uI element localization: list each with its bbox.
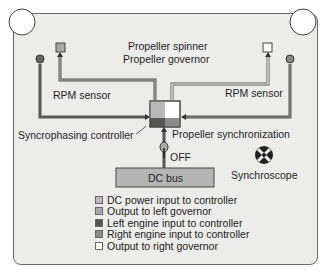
propeller-synchronization-label: Propeller synchronization xyxy=(172,128,290,140)
left-rpm-sensor-label: RPM sensor xyxy=(53,89,111,101)
legend-item: DC power input to controller xyxy=(95,194,249,206)
legend-label: Left engine input to controller xyxy=(107,217,242,229)
off-label: OFF xyxy=(170,151,191,163)
right-governor xyxy=(263,43,272,52)
legend-item: Right engine input to controller xyxy=(95,229,249,241)
propeller-spinner-label: Propeller spinner xyxy=(128,40,207,52)
legend-label: Right engine input to controller xyxy=(107,228,249,240)
legend-swatch xyxy=(95,219,103,227)
legend-label: Output to right governor xyxy=(107,240,218,252)
synchroscope-label: Synchroscope xyxy=(231,169,298,181)
synchroscope-icon xyxy=(255,146,273,164)
left-governor xyxy=(56,43,65,52)
dc-bus-label: DC bus xyxy=(148,172,183,184)
right-propeller-spinner xyxy=(290,9,316,35)
legend-swatch xyxy=(95,207,103,215)
left-propeller-spinner xyxy=(9,9,35,35)
legend: DC power input to controller Output to l… xyxy=(95,194,249,252)
legend-item: Left engine input to controller xyxy=(95,217,249,229)
right-rpm-sensor-label: RPM sensor xyxy=(225,87,283,99)
legend-label: DC power input to controller xyxy=(107,194,237,206)
controller-label: Syncrophasing controller xyxy=(18,129,134,141)
right-rpm-sensor xyxy=(286,55,294,63)
propeller-governor-label: Propeller governor xyxy=(123,53,209,65)
legend-item: Output to right governor xyxy=(95,240,249,252)
legend-swatch xyxy=(95,242,103,250)
legend-item: Output to left governor xyxy=(95,206,249,218)
legend-label: Output to left governor xyxy=(107,205,211,217)
left-rpm-sensor xyxy=(36,55,44,63)
legend-swatch xyxy=(95,196,103,204)
legend-swatch xyxy=(95,230,103,238)
